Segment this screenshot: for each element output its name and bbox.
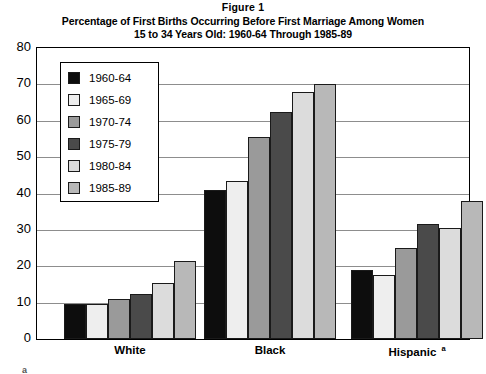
legend-label: 1965-69 [89,94,131,106]
legend-label: 1970-74 [89,116,131,128]
y-tick-label: 70 [0,76,31,89]
y-tick-label: 50 [0,149,31,162]
legend-item[interactable]: 1980-84 [61,155,158,177]
bar [395,248,417,339]
legend-item[interactable]: 1970-74 [61,111,158,133]
bar [174,261,196,339]
bar [86,304,108,339]
legend-item[interactable]: 1975-79 [61,133,158,155]
legend-label: 1985-89 [89,182,131,194]
y-tick-label: 10 [0,295,31,308]
y-tick-label: 0 [0,331,31,344]
legend-label: 1980-84 [89,160,131,172]
y-tick-label: 40 [0,186,31,199]
x-tick-label: Hispanica [351,344,483,358]
bar [108,299,130,339]
x-axis-tick-labels: WhiteBlackHispanica [36,344,470,364]
legend-label: 1975-79 [89,138,131,150]
bar [248,137,270,339]
bar-group [204,48,336,339]
y-axis-tick-labels: 01020304050607080 [0,0,34,374]
y-tick-label: 80 [0,40,31,53]
bar [461,201,483,339]
bar-group [351,48,483,339]
bar [130,294,152,339]
legend-item[interactable]: 1965-69 [61,89,158,111]
bar [351,270,373,339]
legend-swatch [68,116,80,128]
bar-chart: 01020304050607080 WhiteBlackHispanica 19… [0,0,486,374]
bar [417,224,439,339]
bar [204,190,226,339]
bar [226,181,248,339]
x-tick-label: Black [204,344,336,356]
bar [314,84,336,339]
y-tick-label: 60 [0,113,31,126]
legend-swatch [68,182,80,194]
x-tick-label: White [64,344,196,356]
bar [270,112,292,339]
footnote-marker: a [22,366,27,374]
legend-label: 1960-64 [89,72,131,84]
legend-swatch [68,138,80,150]
bar [373,275,395,339]
y-tick-label: 20 [0,258,31,271]
legend-swatch [68,72,80,84]
legend-item[interactable]: 1985-89 [61,177,158,199]
bar [439,228,461,339]
x-tick-label-superscript: a [441,344,445,353]
bar [152,283,174,339]
legend-swatch [68,94,80,106]
legend-item[interactable]: 1960-64 [61,67,158,89]
legend-swatch [68,160,80,172]
legend: 1960-641965-691970-741975-791980-841985-… [60,62,159,202]
bar [64,304,86,339]
bar [292,92,314,339]
y-tick-label: 30 [0,222,31,235]
